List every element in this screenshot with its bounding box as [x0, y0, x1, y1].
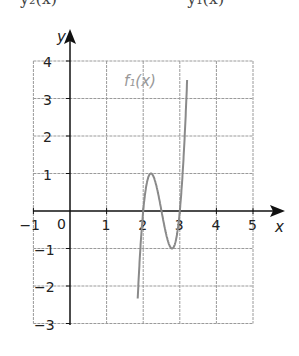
y-tick-label: 2 — [43, 129, 52, 145]
x-tick-label: 5 — [248, 217, 257, 233]
y-tick-label: 1 — [43, 167, 52, 183]
y-tick-label: −2 — [34, 279, 55, 295]
x-tick-label: 4 — [211, 217, 220, 233]
y-tick-label: −1 — [34, 242, 55, 258]
y-tick-label: 3 — [43, 92, 52, 108]
f1-label: f₁(x) — [124, 72, 156, 90]
grid — [33, 61, 253, 324]
y-tick-label: −3 — [34, 317, 55, 333]
y-tick-label: 4 — [43, 54, 52, 70]
function-graph: −1123454321−1−2−3 x y 0 f₁(x) — [0, 0, 299, 356]
origin-label: 0 — [57, 216, 66, 232]
x-tick-label: 1 — [102, 217, 111, 233]
axes — [33, 29, 285, 325]
x-tick-label: −1 — [19, 217, 40, 233]
x-axis-label: x — [274, 218, 284, 236]
y-axis-label: y — [56, 28, 67, 46]
